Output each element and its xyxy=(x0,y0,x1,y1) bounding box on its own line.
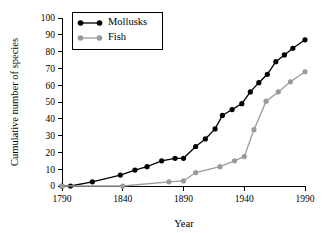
data-point xyxy=(256,80,261,85)
data-point xyxy=(220,113,225,118)
chart-legend: MollusksFish xyxy=(72,12,162,49)
data-point xyxy=(181,178,186,183)
data-series-group xyxy=(59,37,307,188)
y-tick-label: 100 xyxy=(41,13,56,23)
data-point xyxy=(203,136,208,141)
y-axis-title: Cumulative number of species xyxy=(9,38,20,166)
data-point xyxy=(181,156,186,161)
data-point xyxy=(212,126,217,131)
data-point xyxy=(265,72,270,77)
series-line xyxy=(62,72,305,186)
data-point xyxy=(172,156,177,161)
data-point xyxy=(217,164,222,169)
y-tick-label: 50 xyxy=(46,97,56,107)
data-point xyxy=(290,46,295,51)
legend-swatch-marker xyxy=(97,20,103,26)
y-axis-title-group: Cumulative number of species xyxy=(9,38,20,166)
data-point xyxy=(242,154,247,159)
data-point xyxy=(232,158,237,163)
x-axis-title: Year xyxy=(174,218,194,229)
x-axis-ticks: 17901840189019401990 xyxy=(53,186,315,204)
y-tick-label: 80 xyxy=(46,47,56,57)
y-tick-label: 0 xyxy=(50,181,55,191)
series-fish xyxy=(59,69,307,188)
cumulative-species-chart: 0102030405060708090100 17901840189019401… xyxy=(0,0,333,233)
data-point xyxy=(144,164,149,169)
data-point xyxy=(120,183,125,188)
chart-svg: 0102030405060708090100 17901840189019401… xyxy=(0,0,333,233)
y-tick-label: 60 xyxy=(46,81,56,91)
data-point xyxy=(276,89,281,94)
data-point xyxy=(132,167,137,172)
x-tick-label: 1890 xyxy=(174,194,193,204)
x-tick-label: 1940 xyxy=(235,194,254,204)
data-point xyxy=(288,79,293,84)
y-tick-label: 70 xyxy=(46,64,56,74)
data-point xyxy=(273,59,278,64)
y-tick-label: 20 xyxy=(46,148,56,158)
series-mollusks xyxy=(59,37,307,188)
data-point xyxy=(282,52,287,57)
legend-swatch-marker xyxy=(78,20,84,26)
x-tick-label: 1840 xyxy=(113,194,132,204)
data-point xyxy=(302,69,307,74)
data-point xyxy=(248,89,253,94)
y-tick-label: 10 xyxy=(46,165,56,175)
y-tick-label: 30 xyxy=(46,131,56,141)
data-point xyxy=(193,170,198,175)
data-point xyxy=(264,99,269,104)
legend-label: Mollusks xyxy=(108,16,147,27)
data-point xyxy=(159,158,164,163)
y-tick-label: 40 xyxy=(46,114,56,124)
data-point xyxy=(230,107,235,112)
y-tick-label: 90 xyxy=(46,30,56,40)
x-tick-label: 1790 xyxy=(53,194,72,204)
data-point xyxy=(118,172,123,177)
data-point xyxy=(302,37,307,42)
legend-swatch-marker xyxy=(97,35,103,41)
data-point xyxy=(251,127,256,132)
data-point xyxy=(90,179,95,184)
data-point xyxy=(239,101,244,106)
data-point xyxy=(193,144,198,149)
data-point xyxy=(166,179,171,184)
y-axis-ticks: 0102030405060708090100 xyxy=(41,13,62,191)
series-line xyxy=(62,40,305,186)
legend-swatch-marker xyxy=(78,35,84,41)
data-point xyxy=(59,183,64,188)
x-tick-label: 1990 xyxy=(296,194,315,204)
legend-label: Fish xyxy=(108,31,127,42)
